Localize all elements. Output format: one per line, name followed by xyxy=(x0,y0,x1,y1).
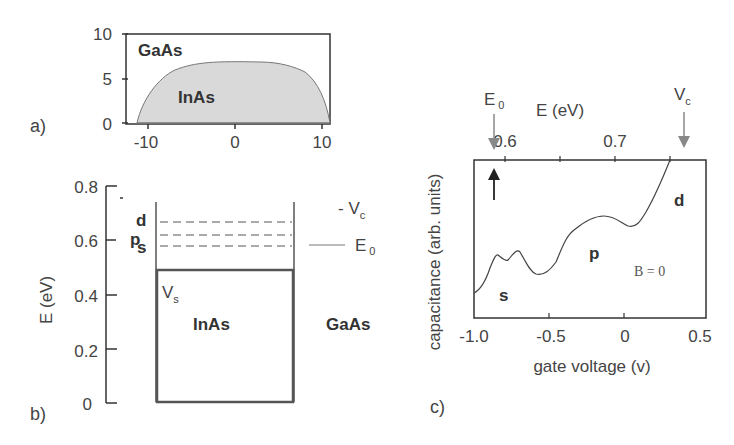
c-xtick-05: 0.5 xyxy=(688,327,712,346)
b-ytick-08: 0.8 xyxy=(74,178,98,197)
b-ytick-06: 0.6 xyxy=(74,232,98,251)
b-vc-label: - Vc xyxy=(338,199,366,221)
a-xtick-10: 10 xyxy=(313,133,332,152)
b-vs-label: Vs xyxy=(162,283,179,305)
panel-b-label: b) xyxy=(30,404,46,424)
vc-arrow-icon xyxy=(678,136,690,148)
a-gaas-label: GaAs xyxy=(138,41,182,60)
b-e0-label: E0 xyxy=(355,236,375,257)
c-ylabel: capacitance (arb. units) xyxy=(425,174,444,351)
a-xtick-0: 0 xyxy=(230,133,239,152)
c-xtick-m10: -1.0 xyxy=(459,327,488,346)
c-toptick-07: 0.7 xyxy=(603,132,627,151)
c-b-field-label: B = 0 xyxy=(634,264,665,279)
b-ytick-02: 0.2 xyxy=(74,342,98,361)
c-plot-frame xyxy=(474,160,706,318)
c-xlabel: gate voltage (v) xyxy=(533,357,650,376)
a-ytick-10: 10 xyxy=(93,25,112,44)
figure-canvas: a) 10 5 0 -10 0 10 GaAs InAs b) E (eV) xyxy=(0,0,734,445)
b-inas-label: InAs xyxy=(193,315,230,334)
b-d-label: d xyxy=(136,211,146,230)
inas-dot-area xyxy=(137,62,330,123)
a-ytick-5: 5 xyxy=(103,70,112,89)
a-ytick-0: 0 xyxy=(103,115,112,134)
b-ytick-0: 0 xyxy=(83,395,92,414)
b-gaas-label: GaAs xyxy=(326,315,370,334)
c-d-label: d xyxy=(674,191,684,210)
b-s-label: s xyxy=(137,238,146,257)
a-inas-label: InAs xyxy=(178,88,215,107)
panel-a-label: a) xyxy=(30,116,46,136)
c-xtick-m05: -0.5 xyxy=(536,327,565,346)
c-s-label: s xyxy=(499,286,508,305)
b-ylabel: E (eV) xyxy=(37,276,56,324)
panel-a: a) 10 5 0 -10 0 10 GaAs InAs xyxy=(30,25,331,152)
c-e0-label: E0 xyxy=(484,90,504,111)
c-top-xlabel: E (eV) xyxy=(536,101,584,120)
panel-c: c) capacitance (arb. units) -1.0 -0.5 0 … xyxy=(425,85,712,417)
c-p-label: p xyxy=(589,244,599,263)
quantum-well xyxy=(157,270,293,402)
c-vc-label: Vc xyxy=(674,85,691,107)
c-xtick-0: 0 xyxy=(620,327,629,346)
panel-b: b) E (eV) 0.8 0.6 0.4 0.2 0 p d s Vs InA… xyxy=(30,178,375,424)
a-xtick-m10: -10 xyxy=(134,133,159,152)
b-ytick-04: 0.4 xyxy=(74,287,98,306)
panel-c-label: c) xyxy=(430,397,445,417)
black-up-arrow-icon xyxy=(488,168,500,180)
